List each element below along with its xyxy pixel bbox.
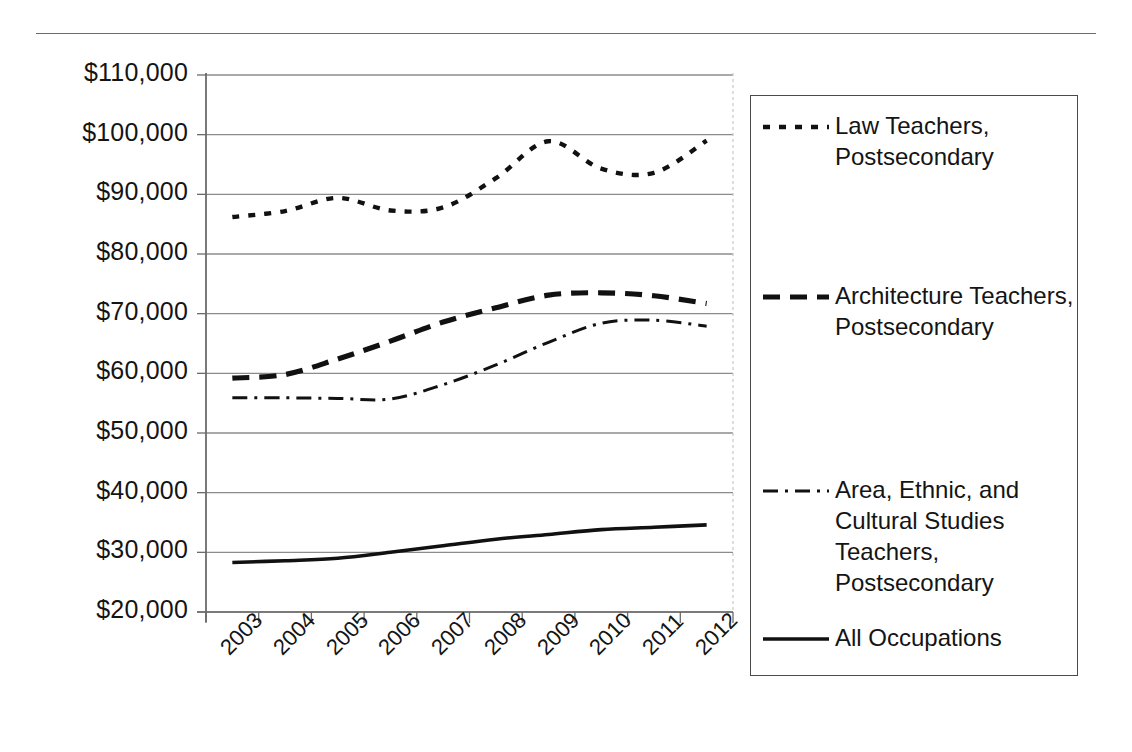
axis-lines-group <box>197 73 733 622</box>
y-axis-tick-label: $50,000 <box>38 416 188 445</box>
legend-swatch-dotted-icon <box>761 114 833 140</box>
legend-label: Area, Ethnic, and Cultural Studies Teach… <box>833 474 1019 598</box>
legend-entry-1[interactable]: Architecture Teachers, Postsecondary <box>761 284 1073 342</box>
y-axis-tick-label: $20,000 <box>38 595 188 624</box>
y-axis-tick-label: $100,000 <box>38 118 188 147</box>
series-line-0 <box>232 141 706 217</box>
y-axis-tick-label: $70,000 <box>38 297 188 326</box>
y-tick-marks-group <box>197 75 206 612</box>
y-axis-tick-label: $110,000 <box>38 58 188 87</box>
y-axis-tick-label: $80,000 <box>38 237 188 266</box>
y-axis-tick-label: $90,000 <box>38 177 188 206</box>
legend-label: Architecture Teachers, Postsecondary <box>833 280 1073 342</box>
series-line-2 <box>232 320 706 400</box>
gridlines-group <box>206 75 733 612</box>
y-axis-tick-label: $30,000 <box>38 535 188 564</box>
data-series-group <box>232 141 706 563</box>
series-line-3 <box>232 525 706 563</box>
legend-label: All Occupations <box>833 622 1002 653</box>
y-axis-tick-label: $40,000 <box>38 476 188 505</box>
chart-legend: Law Teachers, PostsecondaryArchitecture … <box>750 95 1078 676</box>
y-axis-tick-label: $60,000 <box>38 356 188 385</box>
legend-entry-0[interactable]: Law Teachers, Postsecondary <box>761 114 994 172</box>
legend-entry-3[interactable]: All Occupations <box>761 626 1002 653</box>
legend-entry-2[interactable]: Area, Ethnic, and Cultural Studies Teach… <box>761 478 1019 598</box>
legend-label: Law Teachers, Postsecondary <box>833 110 994 172</box>
legend-swatch-solid-icon <box>761 626 833 652</box>
legend-swatch-dash-dot-icon <box>761 478 833 504</box>
chart-page: $110,000$100,000$90,000$80,000$70,000$60… <box>0 0 1132 752</box>
legend-swatch-dashed-icon <box>761 284 833 310</box>
series-line-1 <box>232 293 706 378</box>
